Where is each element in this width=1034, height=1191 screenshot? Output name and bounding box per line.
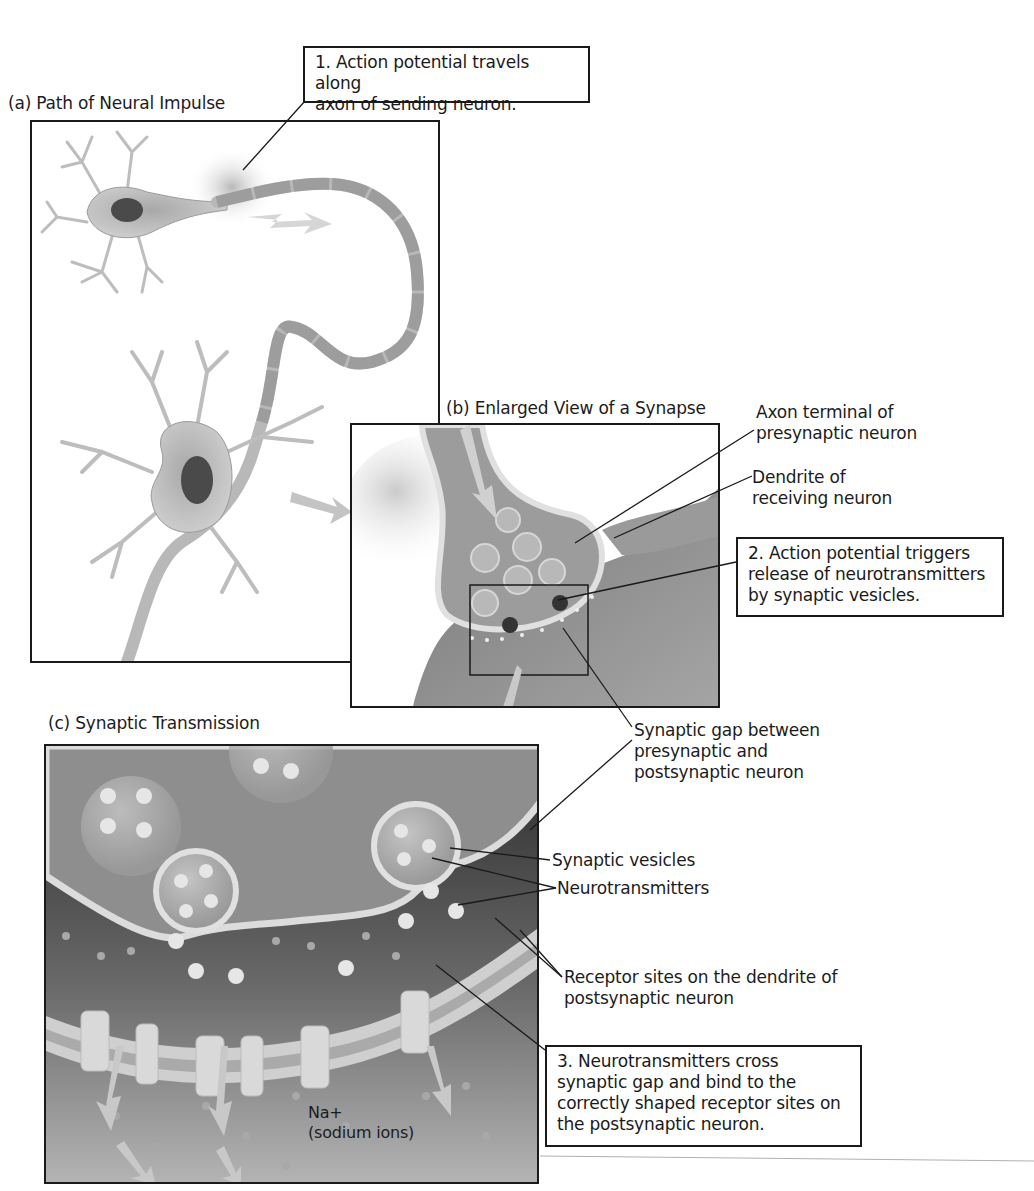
fusing-vesicle: [374, 804, 458, 888]
synapse-illustration: [352, 425, 720, 708]
panel-c-title: (c) Synaptic Transmission: [48, 713, 260, 734]
synaptic-vesicles-label: Synaptic vesicles: [552, 850, 695, 871]
scan-artifact-line: [540, 1156, 1034, 1161]
axon-terminal-label: Axon terminal of presynaptic neuron: [756, 402, 917, 444]
panel-b-frame: [350, 423, 720, 708]
receiving-neuron-nucleus: [181, 456, 213, 504]
callout-step-2: 2. Action potential triggers release of …: [736, 537, 1004, 617]
synaptic-gap-label: Synaptic gap between presynaptic and pos…: [634, 720, 820, 783]
callout-step-3: 3. Neurotransmitters cross synaptic gap …: [545, 1045, 862, 1147]
synaptic-transmission-illustration: [46, 746, 539, 1184]
zoom-arrow-a-to-b: [290, 492, 352, 524]
receptor-sites-label: Receptor sites on the dendrite of postsy…: [564, 967, 837, 1009]
panel-a-title: (a) Path of Neural Impulse: [8, 93, 225, 114]
dendrite-label: Dendrite of receiving neuron: [752, 467, 892, 509]
fusing-vesicle: [156, 851, 236, 931]
sodium-ions-label: Na+ (sodium ions): [308, 1103, 414, 1143]
sending-neuron-nucleus: [111, 198, 143, 222]
callout-step-1: 1. Action potential travels along axon o…: [303, 46, 590, 103]
neurotransmitters-label: Neurotransmitters: [557, 878, 709, 899]
panel-b-title: (b) Enlarged View of a Synapse: [446, 398, 706, 419]
panel-c-frame: Na+ (sodium ions): [44, 744, 539, 1184]
